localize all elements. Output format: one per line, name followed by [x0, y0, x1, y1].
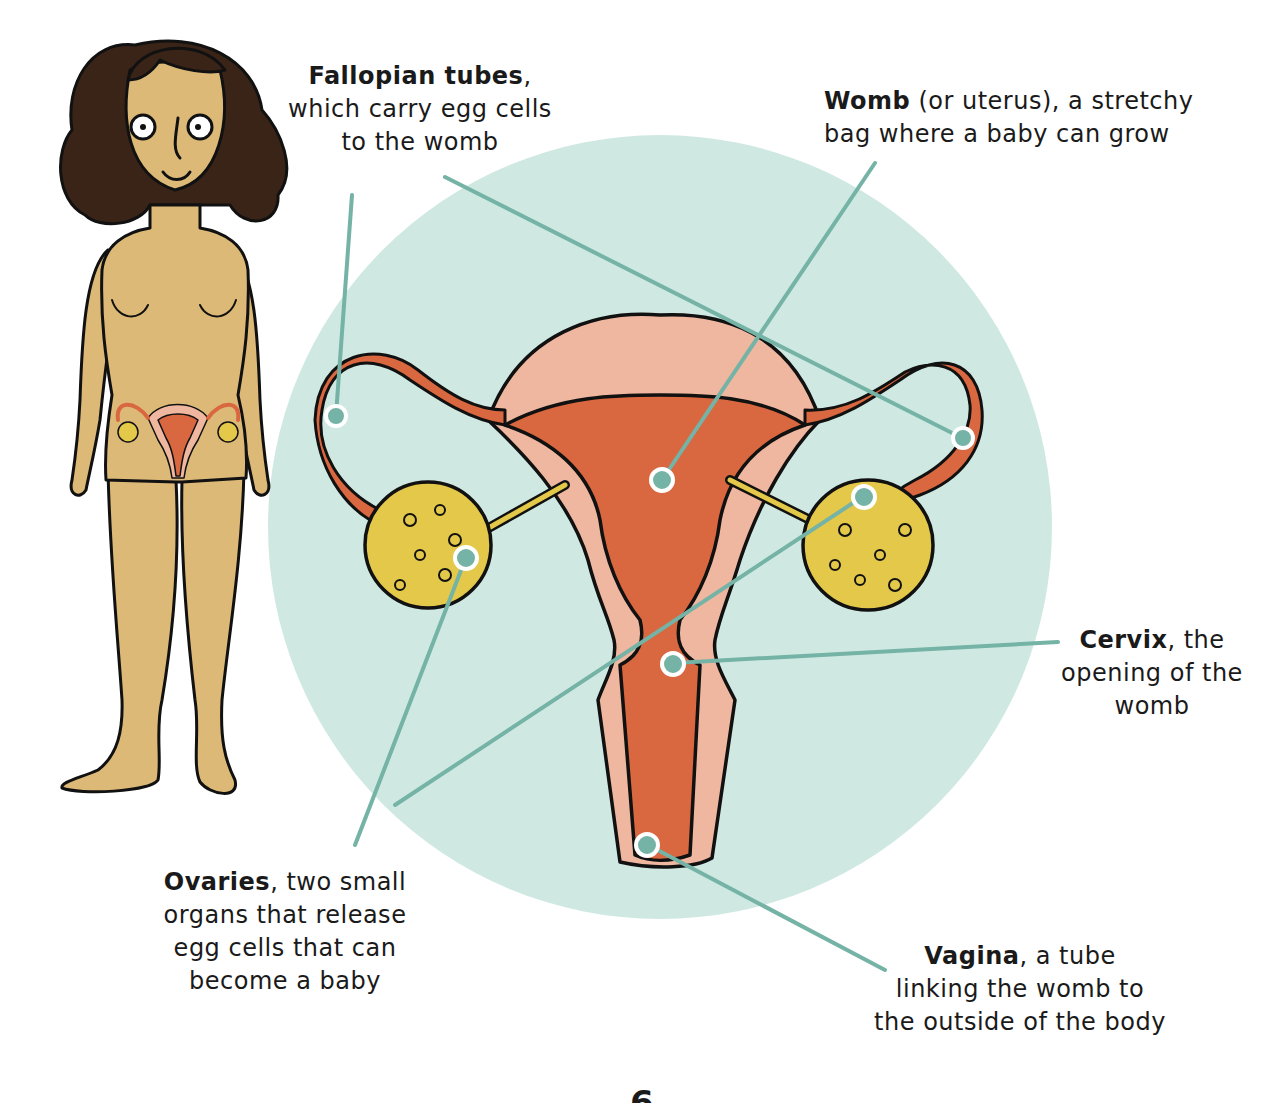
term-womb: Womb [824, 87, 910, 115]
term-vagina: Vagina [924, 942, 1019, 970]
dot-vagina [636, 834, 658, 856]
label-fallopian-tubes: Fallopian tubes, which carry egg cells t… [270, 60, 570, 159]
label-cervix: Cervix, the opening of the womb [1052, 624, 1252, 723]
label-ovaries: Ovaries, two small organs that release e… [140, 866, 430, 998]
dot-womb [651, 469, 673, 491]
dot-fallopian-right [953, 428, 973, 448]
label-womb: Womb (or uterus), a stretchy bag where a… [824, 85, 1254, 151]
dot-ovary-left [455, 547, 477, 569]
dot-cervix [662, 653, 684, 675]
right-leg [182, 470, 244, 793]
label-vagina: Vagina, a tube linking the womb to the o… [855, 940, 1185, 1039]
ovary-left [365, 482, 491, 608]
dot-fallopian-left [326, 406, 346, 426]
term-ovaries: Ovaries [164, 868, 270, 896]
term-fallopian: Fallopian tubes [308, 62, 523, 90]
left-leg [62, 470, 177, 792]
woman-figure [61, 41, 287, 793]
term-cervix: Cervix [1079, 626, 1167, 654]
page-number: 6 [630, 1088, 654, 1103]
dot-ovary-right [853, 486, 875, 508]
